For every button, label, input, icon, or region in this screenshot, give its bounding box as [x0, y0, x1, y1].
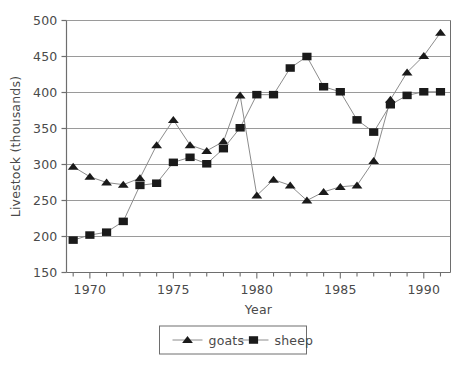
data-point-goats: [168, 116, 179, 123]
legend: goatssheep: [160, 326, 314, 354]
data-point-goats: [368, 157, 379, 164]
data-point-sheep: [352, 116, 361, 124]
plot-frame: [67, 21, 451, 273]
series-goats: [68, 29, 446, 204]
y-tick-label: 300: [33, 157, 57, 172]
data-point-goats: [101, 179, 112, 186]
livestock-line-chart: 1502002503003504004505001970197519801985…: [0, 0, 462, 371]
y-tick-label: 350: [33, 121, 57, 136]
y-tick-label: 150: [33, 265, 57, 280]
data-point-goats: [402, 68, 413, 75]
data-point-sheep: [419, 88, 428, 96]
x-tick-label: 1970: [74, 282, 107, 297]
series-sheep: [69, 53, 446, 244]
data-point-sheep: [269, 91, 278, 99]
data-point-sheep: [202, 160, 211, 168]
data-point-goats: [185, 141, 196, 148]
data-point-goats: [68, 163, 79, 170]
x-tick-label: 1985: [324, 282, 357, 297]
chart-canvas: 1502002503003504004505001970197519801985…: [0, 0, 462, 371]
data-point-sheep: [185, 154, 194, 162]
data-point-sheep: [219, 145, 228, 153]
data-point-sheep: [252, 91, 261, 99]
data-point-sheep: [436, 88, 445, 96]
y-axis-title: Livestock (thousands): [8, 76, 23, 218]
data-point-goats: [352, 181, 363, 188]
data-point-sheep: [236, 124, 245, 132]
data-point-sheep: [69, 236, 78, 244]
legend-label-sheep: sheep: [275, 333, 314, 348]
data-point-goats: [318, 188, 329, 195]
x-tick-label: 1975: [157, 282, 190, 297]
data-point-sheep: [85, 231, 94, 239]
data-point-goats: [268, 176, 279, 183]
data-point-goats: [135, 174, 146, 181]
data-point-sheep: [286, 64, 295, 72]
data-point-sheep: [402, 92, 411, 100]
data-point-goats: [418, 52, 429, 59]
data-point-goats: [435, 29, 446, 36]
data-point-sheep: [119, 218, 128, 226]
legend-marker-square: [249, 336, 258, 344]
series-line-goats: [73, 33, 440, 201]
y-tick-label: 400: [33, 85, 57, 100]
data-point-sheep: [152, 179, 161, 187]
data-point-sheep: [336, 88, 345, 96]
data-point-sheep: [369, 128, 378, 136]
data-point-goats: [151, 141, 162, 148]
data-point-goats: [251, 192, 262, 199]
data-point-sheep: [302, 53, 311, 61]
series-line-sheep: [73, 57, 440, 241]
x-axis: 19701975198019851990: [73, 273, 440, 297]
x-tick-label: 1990: [407, 282, 440, 297]
data-point-sheep: [386, 101, 395, 109]
x-axis-title: Year: [244, 302, 273, 317]
x-tick-label: 1980: [241, 282, 274, 297]
data-point-goats: [201, 147, 212, 154]
y-tick-label: 500: [33, 13, 57, 28]
y-tick-label: 200: [33, 229, 57, 244]
y-tick-label: 250: [33, 193, 57, 208]
data-point-sheep: [135, 182, 144, 190]
data-point-sheep: [169, 159, 178, 167]
y-tick-label: 450: [33, 49, 57, 64]
y-axis: 150200250300350400450500: [33, 13, 66, 280]
data-point-goats: [285, 181, 296, 188]
gridlines: [67, 21, 451, 237]
data-point-sheep: [319, 83, 328, 91]
data-point-sheep: [102, 228, 111, 236]
